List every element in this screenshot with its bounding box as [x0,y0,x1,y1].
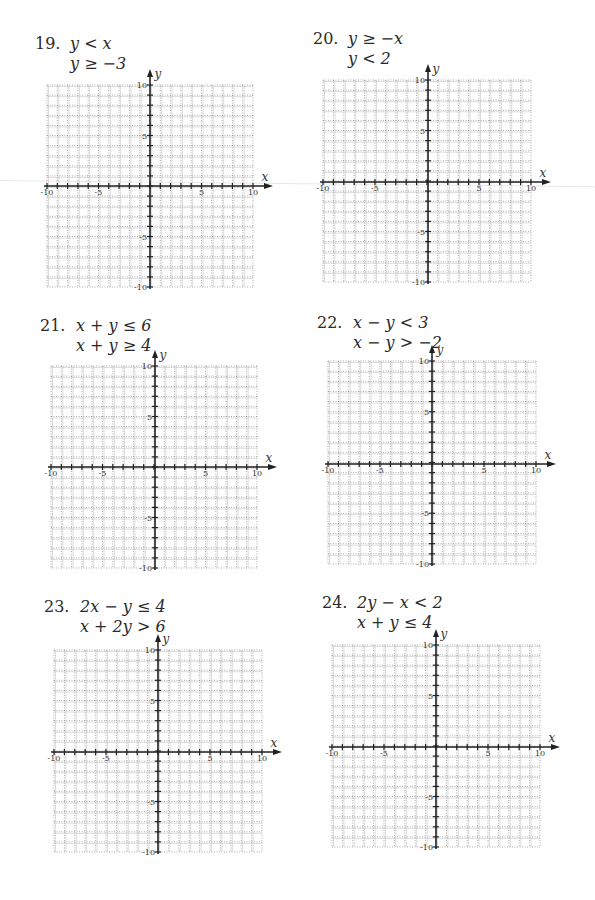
x-axis-label: x [549,731,556,745]
y-tick-label: -10 [420,843,433,852]
y-axis-label: y [440,627,448,641]
x-tick-label: -10 [326,749,339,758]
coordinate-grid-24[interactable]: -10-5510105-5-10xy [0,0,595,900]
y-tick-label: 5 [428,692,433,701]
x-tick-label: 5 [485,749,490,758]
y-tick-label: -5 [425,793,433,802]
x-tick-label: 10 [535,749,545,758]
x-tick-label: -5 [380,749,388,758]
y-axis-arrow-icon [433,629,439,637]
y-tick-label: 10 [423,641,433,650]
